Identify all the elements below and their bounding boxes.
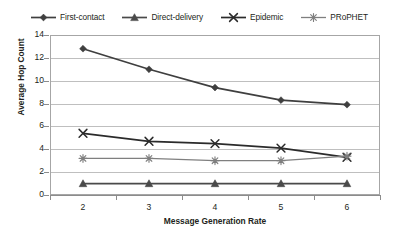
legend-label: Direct-delivery bbox=[151, 12, 203, 22]
asterisk-marker-icon bbox=[300, 12, 327, 23]
series-line bbox=[83, 133, 347, 157]
y-axis-tick-mark bbox=[44, 149, 49, 150]
legend-item-direct-delivery[interactable]: Direct-delivery bbox=[121, 12, 203, 23]
legend-label: First-contact bbox=[60, 12, 104, 22]
x-axis-tick-mark bbox=[116, 195, 117, 200]
series-line bbox=[83, 49, 347, 105]
y-axis-tick-mark bbox=[44, 35, 49, 36]
x-axis-tick-mark bbox=[314, 195, 315, 200]
plot-area bbox=[50, 35, 380, 195]
x-axis-tick-mark bbox=[248, 195, 249, 200]
y-axis-tick-mark bbox=[44, 58, 49, 59]
diamond-marker-icon bbox=[30, 12, 57, 23]
legend-item-epidemic[interactable]: Epidemic bbox=[220, 12, 283, 23]
x-axis-tick-label: 6 bbox=[332, 202, 362, 212]
x-axis-tick-label: 4 bbox=[200, 202, 230, 212]
cross-x-marker-icon bbox=[220, 12, 247, 23]
y-axis-tick-mark bbox=[44, 81, 49, 82]
series-layer bbox=[50, 35, 380, 195]
legend-item-first-contact[interactable]: First-contact bbox=[30, 12, 104, 23]
x-axis-tick-mark bbox=[50, 195, 51, 200]
line-chart: First-contactDirect-deliveryEpidemicPRoP… bbox=[0, 0, 398, 236]
y-axis-tick-marks bbox=[0, 35, 50, 195]
legend-label: Epidemic bbox=[250, 12, 283, 22]
legend-label: PRoPHET bbox=[330, 12, 368, 22]
x-axis-line bbox=[50, 195, 380, 196]
triangle-marker-icon bbox=[121, 12, 148, 23]
y-axis-tick-mark bbox=[44, 195, 49, 196]
x-axis-tick-label: 5 bbox=[266, 202, 296, 212]
x-axis-tick-label: 3 bbox=[134, 202, 164, 212]
y-axis-tick-mark bbox=[44, 104, 49, 105]
chart-legend: First-contactDirect-deliveryEpidemicPRoP… bbox=[0, 9, 398, 25]
y-axis-tick-mark bbox=[44, 126, 49, 127]
x-axis-tick-mark bbox=[380, 195, 381, 200]
x-axis-title: Message Generation Rate bbox=[50, 216, 380, 226]
y-axis-tick-mark bbox=[44, 172, 49, 173]
legend-item-prophet[interactable]: PRoPHET bbox=[300, 12, 368, 23]
x-axis-tick-mark bbox=[182, 195, 183, 200]
x-axis-tick-label: 2 bbox=[68, 202, 98, 212]
